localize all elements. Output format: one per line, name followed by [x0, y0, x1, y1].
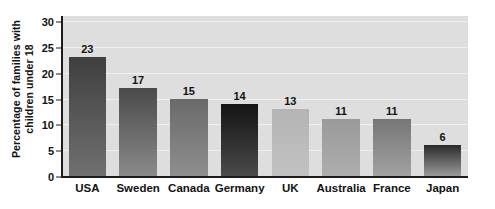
y-axis-tick-label: 0 [48, 171, 54, 183]
bar-value-label: 6 [440, 131, 446, 143]
y-axis-tick-labels: 051015202530 [28, 17, 54, 176]
bar-group: 13 [272, 16, 309, 176]
bar-value-label: 13 [284, 95, 296, 107]
bar-value-label: 23 [81, 43, 93, 55]
y-axis-tick-label: 5 [48, 145, 54, 157]
x-axis-tick-label: France [367, 182, 418, 194]
bar-value-label: 11 [335, 105, 347, 117]
bar-value-label: 14 [233, 90, 245, 102]
bar-group: 14 [221, 16, 258, 176]
bar-value-label: 15 [183, 85, 195, 97]
bar [119, 88, 156, 176]
bar [424, 145, 461, 176]
y-axis-tick-label: 30 [42, 16, 54, 28]
x-axis-tick-labels: USASwedenCanadaGermanyUKAustraliaFranceJ… [62, 182, 468, 202]
bar [221, 104, 258, 176]
plot-area: 231715141311116 [62, 16, 468, 176]
y-axis-title-line-1: Percentage of families with [10, 20, 23, 158]
bar [373, 119, 410, 176]
x-axis-tick-label: Australia [316, 182, 367, 194]
y-axis-tick-label: 25 [42, 42, 54, 54]
x-axis-line [61, 176, 468, 178]
y-axis-tick-label: 15 [42, 94, 54, 106]
bar [322, 119, 359, 176]
bar-chart-figure: Percentage of families with children und… [0, 0, 495, 209]
bar [170, 99, 207, 176]
y-axis-line [61, 16, 63, 177]
x-axis-tick-label: UK [265, 182, 316, 194]
bar [272, 109, 309, 176]
bar-value-label: 17 [132, 74, 144, 86]
bar-group: 23 [69, 16, 106, 176]
bar-group: 6 [424, 16, 461, 176]
bars-layer: 231715141311116 [62, 16, 468, 176]
x-axis-tick-label: Sweden [113, 182, 164, 194]
x-axis-tick-label: USA [62, 182, 113, 194]
x-axis-tick-label: Canada [164, 182, 215, 194]
bar [69, 57, 106, 176]
bar-value-label: 11 [386, 105, 398, 117]
bar-group: 11 [373, 16, 410, 176]
bar-group: 17 [119, 16, 156, 176]
y-axis-tick-label: 20 [42, 68, 54, 80]
y-axis-tick-label: 10 [42, 119, 54, 131]
x-axis-tick-label: Germany [214, 182, 265, 194]
bar-group: 11 [322, 16, 359, 176]
bar-group: 15 [170, 16, 207, 176]
x-axis-tick-label: Japan [417, 182, 468, 194]
